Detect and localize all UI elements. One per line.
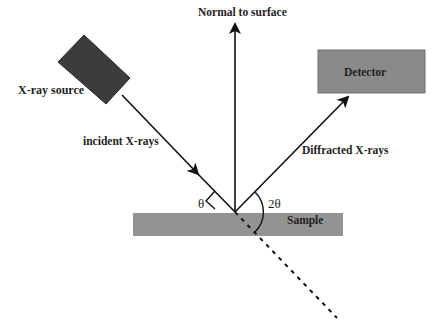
xrd-diagram: Normal to surface X-ray source Detector … bbox=[0, 0, 442, 334]
two-theta-label: 2θ bbox=[268, 197, 281, 210]
theta-label: θ bbox=[198, 197, 204, 210]
diffracted-label: Diffracted X-rays bbox=[302, 145, 389, 157]
xray-source-label: X-ray source bbox=[18, 84, 84, 96]
detector-label: Detector bbox=[344, 67, 386, 79]
diagram-canvas bbox=[0, 0, 442, 334]
normal-label: Normal to surface bbox=[198, 7, 287, 19]
incident-label: incident X-rays bbox=[83, 136, 159, 148]
theta-angle-marker bbox=[206, 191, 215, 209]
sample-label: Sample bbox=[287, 215, 323, 227]
